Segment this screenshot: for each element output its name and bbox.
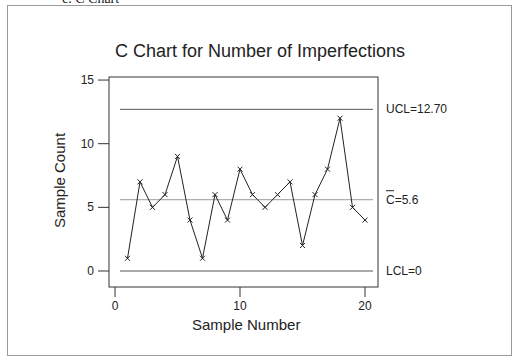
x-axis: 01020 — [112, 287, 372, 313]
y-tick-label: 5 — [87, 200, 94, 214]
x-marker-icon — [163, 192, 168, 197]
x-marker-icon — [363, 218, 368, 223]
lcl-label: LCL=0 — [386, 264, 422, 278]
series-line — [128, 118, 366, 258]
x-marker-icon — [150, 205, 155, 210]
y-tick-label: 10 — [81, 137, 95, 151]
plot-area — [109, 77, 378, 287]
x-axis-label: Sample Number — [192, 316, 300, 333]
x-marker-icon — [250, 192, 255, 197]
x-tick-label: 0 — [112, 299, 119, 313]
y-tick-label: 15 — [81, 73, 95, 87]
control-limits: UCL=12.70C=5.6LCL=0 — [120, 102, 447, 278]
y-tick-label: 0 — [87, 264, 94, 278]
chart-title: C Chart for Number of Imperfections — [115, 41, 405, 61]
x-tick-label: 20 — [358, 299, 372, 313]
y-axis: 051015 — [81, 73, 109, 278]
c-chart: C Chart for Number of Imperfections 0510… — [0, 0, 521, 359]
y-axis-label: Sample Count — [51, 132, 68, 228]
ucl-label: UCL=12.70 — [386, 102, 447, 116]
x-tick-label: 10 — [233, 299, 247, 313]
x-marker-icon — [275, 192, 280, 197]
data-series — [125, 116, 368, 261]
x-marker-icon — [263, 205, 268, 210]
c-bar-label: C=5.6 — [386, 193, 419, 207]
